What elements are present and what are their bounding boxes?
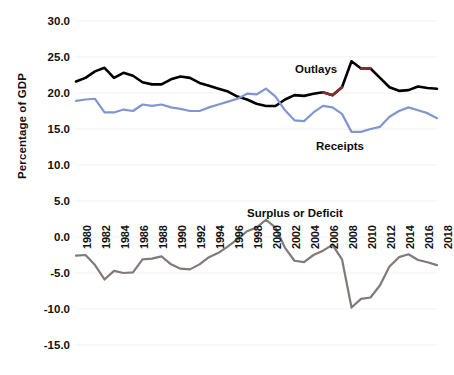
- x-tick-label: 1980: [81, 225, 93, 249]
- x-tick-label: 1984: [119, 225, 131, 249]
- x-tick-label: 2008: [347, 225, 359, 249]
- x-tick-label: 2006: [328, 225, 340, 249]
- x-tick-label: 2012: [385, 225, 397, 249]
- x-tick-label: 2002: [290, 225, 302, 249]
- series-annotation-outlays: Outlays: [295, 63, 337, 75]
- plot-background: [76, 12, 437, 360]
- x-tick-label: 1998: [252, 225, 264, 249]
- x-tick-label: 2014: [404, 225, 416, 249]
- x-tick-label: 1982: [100, 225, 112, 249]
- x-tick-label: 1986: [138, 225, 150, 249]
- x-tick-label: 2010: [366, 225, 378, 249]
- x-tick-label: 2018: [442, 225, 454, 249]
- x-tick-label: 1994: [214, 225, 226, 249]
- x-tick-label: 2016: [423, 225, 435, 249]
- x-tick-label: 1988: [157, 225, 169, 249]
- x-tick-label: 1992: [195, 225, 207, 249]
- x-tick-label: 1996: [233, 225, 245, 249]
- x-tick-label: 2004: [309, 225, 321, 249]
- series-annotation-surplus-or-deficit: Surplus or Deficit: [247, 207, 343, 219]
- x-tick-label: 2000: [271, 225, 283, 249]
- series-annotation-receipts: Receipts: [316, 140, 364, 152]
- x-tick-label: 1990: [176, 225, 188, 249]
